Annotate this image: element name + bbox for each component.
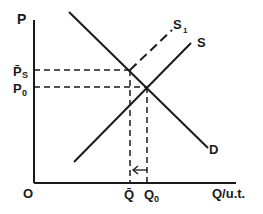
left-arrow-icon: [133, 166, 147, 174]
p-zero-label: P 0: [13, 81, 27, 98]
supply-shifted-label: S 1: [173, 17, 188, 35]
supply-label: S: [197, 35, 206, 50]
supply-curve: [74, 43, 191, 162]
svg-text:S: S: [22, 70, 28, 80]
y-axis-label: P: [17, 11, 26, 27]
svg-text:0: 0: [22, 88, 27, 98]
svg-text:P̄: P̄: [13, 64, 22, 79]
origin-label: O: [23, 186, 33, 201]
supply-shifted-curve: [130, 30, 172, 70]
svg-text:1: 1: [183, 26, 188, 35]
q-zero-label: Q 0: [144, 187, 159, 204]
q-bar-label: Q̄: [124, 187, 134, 202]
svg-text:P: P: [13, 81, 22, 96]
p-bar-s-label: P̄ S: [13, 64, 28, 80]
x-axis-label: Q/u.t.: [212, 186, 245, 201]
demand-label: D: [209, 142, 218, 157]
supply-demand-diagram: P O Q/u.t. D S S 1 P̄ S P 0 Q̄ Q 0: [0, 0, 263, 214]
svg-text:S: S: [173, 17, 182, 32]
svg-text:0: 0: [154, 194, 159, 204]
svg-text:Q: Q: [144, 187, 154, 202]
